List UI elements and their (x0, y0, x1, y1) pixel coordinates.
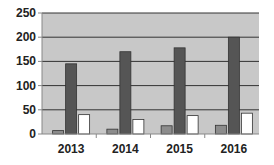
x-tick-label: 2014 (112, 142, 139, 156)
bar (53, 131, 64, 134)
y-tick-label: 250 (16, 6, 36, 20)
bar (161, 126, 172, 134)
bar (187, 116, 198, 134)
bar (133, 119, 144, 134)
bar (228, 37, 239, 134)
x-tick-label: 2013 (58, 142, 85, 156)
x-tick-label: 2015 (166, 142, 193, 156)
bar (174, 48, 185, 134)
bar (66, 64, 77, 134)
bar-chart: 050100150200250 2013201420152016 (0, 0, 274, 165)
x-tick-labels: 2013201420152016 (58, 134, 248, 156)
bar (241, 113, 252, 134)
y-tick-label: 150 (16, 54, 36, 68)
y-tick-labels: 050100150200250 (16, 6, 36, 141)
y-tick-label: 200 (16, 30, 36, 44)
bar (107, 129, 118, 134)
x-tick-label: 2016 (221, 142, 248, 156)
bar (79, 115, 90, 134)
y-tick-label: 100 (16, 79, 36, 93)
bar (215, 125, 226, 134)
y-tick-label: 50 (23, 103, 37, 117)
y-tick-label: 0 (29, 127, 36, 141)
bar (120, 52, 131, 134)
